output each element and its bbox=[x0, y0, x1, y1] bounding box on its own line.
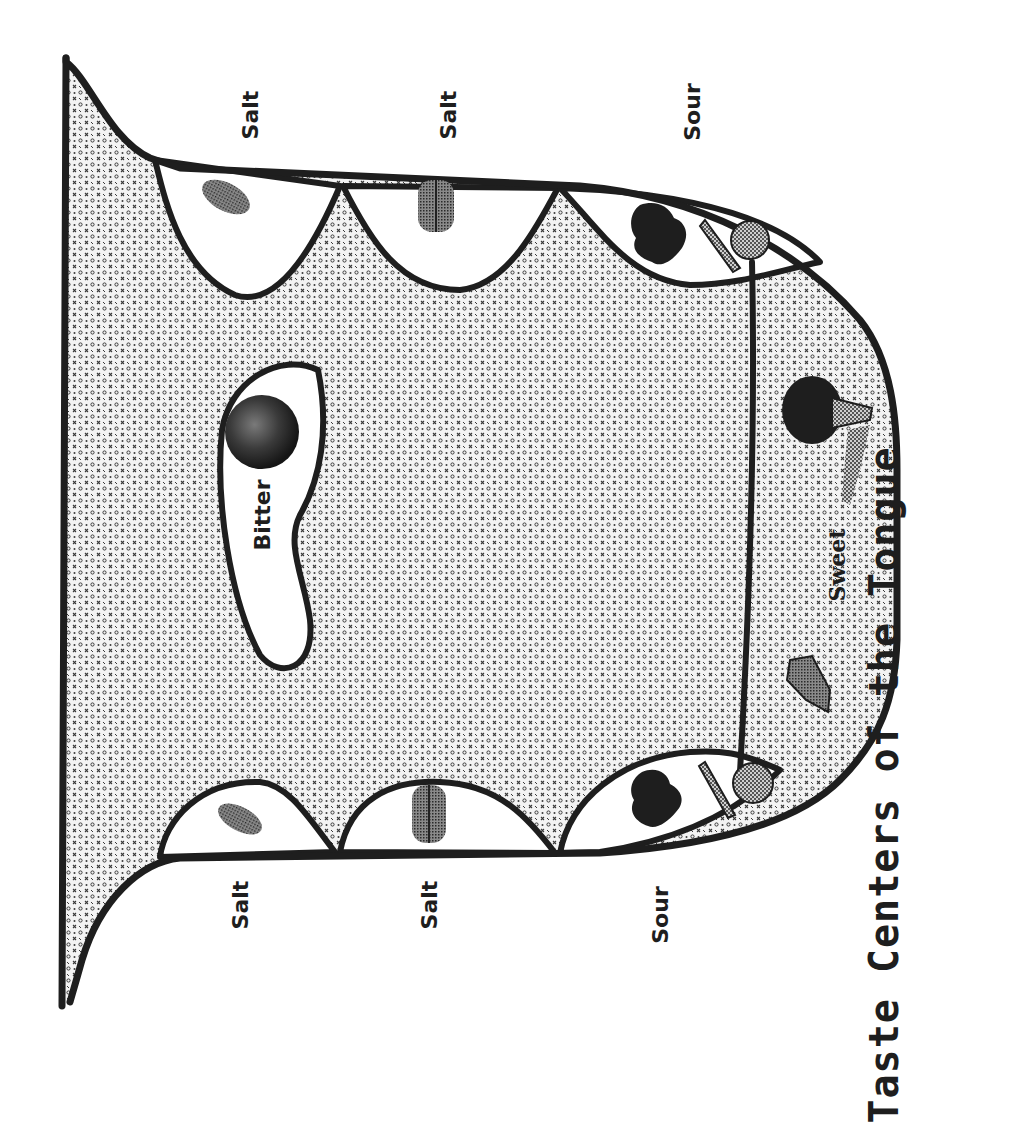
sour-label-bottom: Sour bbox=[648, 886, 673, 944]
sour-label-top: Sour bbox=[680, 83, 705, 141]
bitter-label: Bitter bbox=[250, 479, 275, 550]
salt-label-top-2: Salt bbox=[436, 90, 461, 139]
tongue-base-line bbox=[62, 58, 66, 1006]
salt-label-bottom-2: Salt bbox=[417, 880, 442, 929]
salt-shaker-icon bbox=[418, 180, 454, 232]
bleed-through-text bbox=[645, 75, 664, 80]
salt-label-top-1: Salt bbox=[238, 90, 263, 139]
diagram-title: Taste Centers of the Tongue bbox=[861, 446, 907, 1123]
tongue-taste-diagram: Salt Salt Sour Salt Salt Sour Bitter Swe… bbox=[0, 0, 1016, 1130]
salt-label-bottom-1: Salt bbox=[228, 880, 253, 929]
lemon-slice-icon bbox=[731, 221, 769, 259]
lemon-slice-icon bbox=[733, 763, 773, 803]
salt-shaker-icon bbox=[412, 785, 446, 843]
bitter-ball-icon bbox=[225, 395, 299, 469]
sweet-label: Sweet bbox=[824, 528, 850, 602]
